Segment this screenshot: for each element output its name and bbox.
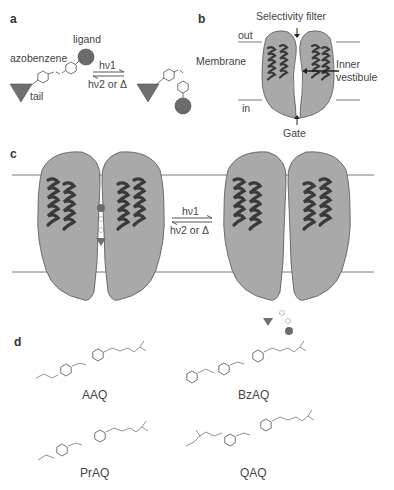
- out-label: out: [238, 29, 253, 41]
- panel-label-d: d: [14, 335, 21, 349]
- in-label: in: [242, 102, 250, 114]
- panel-c-reverse-label: hν2 or Δ: [170, 224, 209, 236]
- panel-a-reverse-label: hν2 or Δ: [88, 78, 127, 90]
- compound-qaq: QAQ: [240, 466, 267, 480]
- panel-a-cis-molecule: [137, 69, 191, 114]
- panel-d-structures: [36, 341, 314, 460]
- panel-c-forward-label: hν1: [182, 205, 199, 217]
- panel-a-forward-label: hν1: [99, 59, 116, 71]
- panel-label-c: c: [10, 147, 17, 161]
- ligand-label: ligand: [73, 33, 101, 45]
- inner-label: Inner: [336, 58, 360, 70]
- figure-graphics: [0, 0, 394, 490]
- gate-label: Gate: [283, 127, 306, 139]
- panel-label-b: b: [198, 12, 205, 26]
- panel-c-open-channel: [224, 152, 351, 335]
- panel-c-blocked-channel: [38, 152, 165, 301]
- panel-label-a: a: [10, 12, 17, 26]
- compound-aaq: AAQ: [82, 388, 107, 402]
- azobenzene-label: azobenzene: [10, 52, 67, 64]
- selectivity-filter-label: Selectivity filter: [256, 10, 326, 22]
- compound-bzaq: BzAQ: [238, 388, 269, 402]
- compound-praq: PrAQ: [80, 466, 109, 480]
- membrane-label: Membrane: [196, 55, 246, 67]
- vestibule-label: vestibule: [336, 71, 377, 83]
- tail-label: tail: [30, 90, 43, 102]
